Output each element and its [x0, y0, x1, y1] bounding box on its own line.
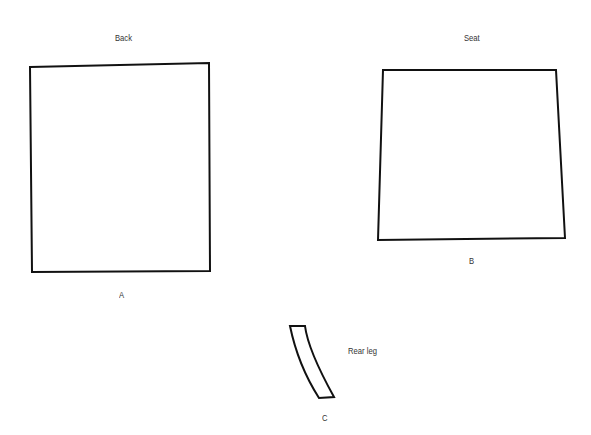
back-letter-label: A: [119, 290, 124, 300]
seat-letter-label: B: [469, 256, 474, 266]
back-piece-outline: [30, 63, 210, 272]
pattern-diagram: [0, 0, 591, 435]
rear-leg-title-label: Rear leg: [348, 346, 377, 356]
seat-piece-outline: [378, 70, 565, 240]
rear-leg-letter-label: C: [322, 413, 328, 423]
rear-leg-piece-outline: [290, 326, 334, 398]
seat-title-label: Seat: [464, 33, 480, 43]
back-title-label: Back: [115, 33, 132, 43]
